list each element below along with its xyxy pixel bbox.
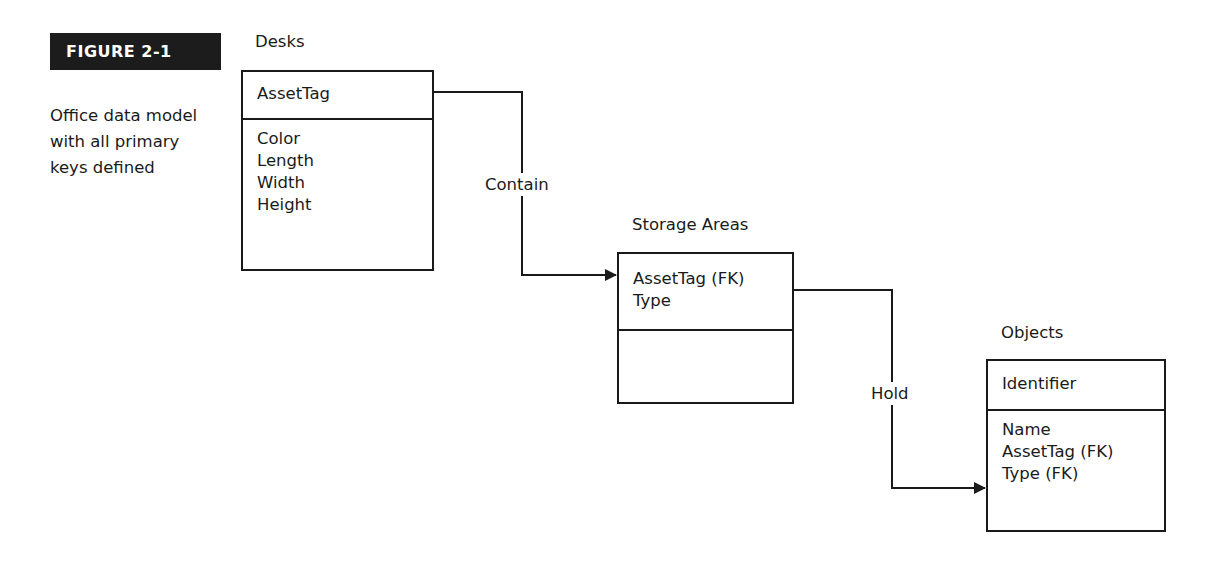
attribute-field: Name bbox=[1002, 419, 1164, 441]
primary-key-section: AssetTag (FK) Type bbox=[619, 254, 792, 331]
key-field: AssetTag (FK) bbox=[633, 268, 792, 290]
key-field: Type bbox=[633, 290, 792, 312]
key-field: Identifier bbox=[1002, 361, 1164, 407]
key-field: AssetTag bbox=[257, 72, 432, 116]
entity-objects: Identifier Name AssetTag (FK) Type (FK) bbox=[986, 359, 1166, 532]
attribute-field: Color bbox=[257, 128, 432, 150]
entity-desks: AssetTag Color Length Width Height bbox=[241, 70, 434, 271]
attribute-field: AssetTag (FK) bbox=[1002, 441, 1164, 463]
attribute-field: Height bbox=[257, 194, 432, 216]
relationship-label-contain: Contain bbox=[485, 173, 549, 196]
entity-title-objects: Objects bbox=[1001, 323, 1063, 342]
entity-title-desks: Desks bbox=[255, 32, 305, 51]
attribute-section: Color Length Width Height bbox=[243, 120, 432, 216]
primary-key-section: AssetTag bbox=[243, 72, 432, 120]
attribute-field: Width bbox=[257, 172, 432, 194]
entity-title-storage-areas: Storage Areas bbox=[632, 215, 748, 234]
entity-storage-areas: AssetTag (FK) Type bbox=[617, 252, 794, 404]
attribute-field: Length bbox=[257, 150, 432, 172]
relationship-label-hold: Hold bbox=[871, 382, 909, 405]
primary-key-section: Identifier bbox=[988, 361, 1164, 411]
attribute-field: Type (FK) bbox=[1002, 463, 1164, 485]
attribute-section: Name AssetTag (FK) Type (FK) bbox=[988, 411, 1164, 485]
attribute-section bbox=[619, 331, 792, 339]
